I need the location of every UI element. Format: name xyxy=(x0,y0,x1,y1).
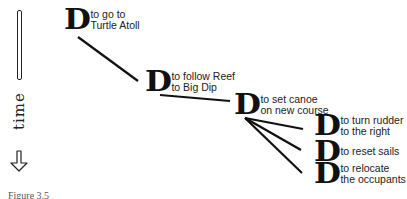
down-arrow-icon xyxy=(9,150,29,172)
figure-caption: Figure 3.5 xyxy=(8,190,49,199)
node-label: to reset sails xyxy=(340,146,399,157)
edge-n2-n3 xyxy=(160,95,230,101)
node-label: to go to Turtle Atoll xyxy=(90,9,139,31)
decision-glyph-icon: D xyxy=(314,163,340,185)
decision-node-turn-rudder: D to turn rudder to the right xyxy=(314,115,403,137)
decision-node-go-to-turtle-atoll: D to go to Turtle Atoll xyxy=(64,9,140,31)
decision-node-follow-reef: D to follow Reef to Big Dip xyxy=(145,71,235,93)
decision-glyph-icon: D xyxy=(314,115,340,137)
node-label: to turn rudder to the right xyxy=(340,115,403,137)
decision-glyph-icon: D xyxy=(234,94,260,116)
node-label: to relocate the occupants xyxy=(340,163,405,185)
node-label: to follow Reef to Big Dip xyxy=(171,71,235,93)
timeline-bar xyxy=(17,10,22,80)
edge-n1-n2 xyxy=(78,37,138,81)
time-axis-label: time xyxy=(10,100,28,130)
decision-node-relocate-occupants: D to relocate the occupants xyxy=(314,163,406,185)
decision-glyph-icon: D xyxy=(64,9,90,31)
decision-glyph-icon: D xyxy=(145,71,171,93)
